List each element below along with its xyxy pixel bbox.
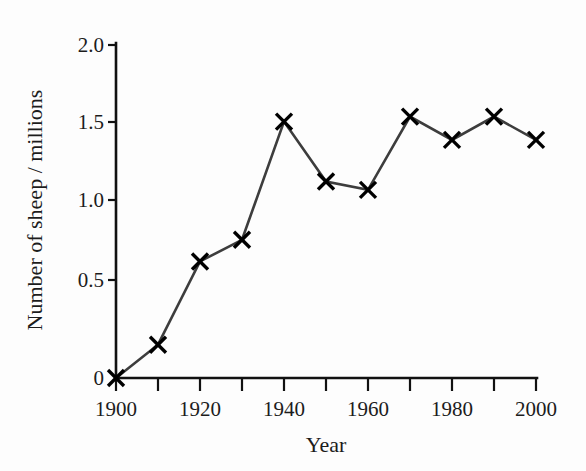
data-markers-group — [108, 109, 544, 386]
y-tick-label-0: 0 — [94, 366, 105, 390]
data-point-marker — [234, 232, 250, 248]
x-tick-label-1920: 1920 — [179, 397, 221, 421]
x-tick-label-1940: 1940 — [263, 397, 305, 421]
data-point-marker — [528, 132, 544, 148]
data-series-line — [116, 117, 536, 378]
data-point-marker — [150, 337, 166, 353]
data-point-marker — [444, 132, 460, 148]
y-tick-label-1_5: 1.5 — [78, 110, 104, 134]
sheep-population-chart: Number of sheep / millions 2.0 1.5 1.0 0… — [0, 0, 586, 471]
x-tick-label-1960: 1960 — [347, 397, 389, 421]
x-tick-label-1900: 1900 — [95, 397, 137, 421]
y-tick-label-0_5: 0.5 — [78, 268, 104, 292]
x-tick-label-2000: 2000 — [515, 397, 557, 421]
data-point-marker — [276, 114, 292, 130]
x-tick-label-1980: 1980 — [431, 397, 473, 421]
x-axis-title: Year — [306, 432, 347, 457]
data-point-marker — [402, 109, 418, 125]
y-tick-label-1: 1.0 — [78, 188, 104, 212]
chart-canvas: Number of sheep / millions 2.0 1.5 1.0 0… — [0, 0, 586, 471]
y-tick-label-2: 2.0 — [78, 33, 104, 57]
data-point-marker — [192, 253, 208, 269]
y-axis-title: Number of sheep / millions — [22, 90, 47, 331]
data-point-marker — [486, 109, 502, 125]
